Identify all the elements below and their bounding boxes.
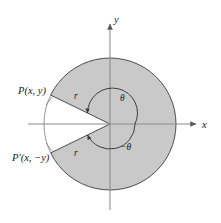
polar-reflection-diagram: P(x, y) P'(x, −y) r r θ −θ x y [0,0,221,223]
label-radius-upper: r [74,91,78,101]
label-x-axis: x [201,119,207,130]
label-angle-theta: θ [120,93,125,103]
label-point-p-prime: P'(x, −y) [11,152,50,164]
label-angle-negative-theta: −θ [120,142,131,152]
figure-container: P(x, y) P'(x, −y) r r θ −θ x y [0,0,221,223]
label-radius-lower: r [74,148,78,158]
label-point-p: P(x, y) [17,85,46,97]
label-y-axis: y [113,14,119,25]
